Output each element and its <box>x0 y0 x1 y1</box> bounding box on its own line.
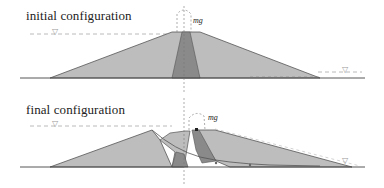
water-level-icon: ▽ <box>342 156 348 165</box>
mass-block-outline <box>177 10 191 32</box>
debris-mark <box>215 162 217 164</box>
water-level-icon: ▽ <box>52 27 58 36</box>
initial-configuration-title: initial configuration <box>26 8 132 24</box>
weight-label: mg <box>193 16 203 25</box>
final-configuration-title: final configuration <box>26 102 125 118</box>
downstream-shell <box>196 130 352 167</box>
water-level-icon: ▽ <box>342 65 348 74</box>
crest-marker <box>195 128 198 131</box>
water-level-icon: ▽ <box>52 119 58 128</box>
mass-block-outline <box>189 113 205 130</box>
dam-diagram: initial configuration final configuratio… <box>0 0 384 188</box>
weight-label: mg <box>208 113 218 122</box>
upstream-slid-block <box>50 130 172 167</box>
debris-mark <box>249 164 251 166</box>
